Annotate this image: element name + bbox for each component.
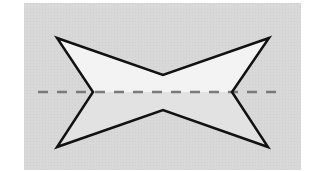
diagram-canvas [0,0,309,171]
symmetry-diagram [0,0,309,171]
